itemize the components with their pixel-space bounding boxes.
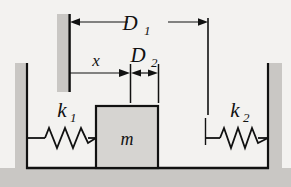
right-wall-fill [268,63,282,169]
left-wall-fill [15,63,27,169]
d1-label-subscript: 1 [144,23,151,38]
d2-label-subscript: 2 [151,55,158,70]
right-spring [205,128,268,148]
d1-arrowhead-right [198,18,208,26]
ground-fill [0,168,291,187]
d1-label: D [121,11,137,35]
left-spring [28,128,96,148]
x-label: x [91,51,100,70]
mass-label: m [121,129,134,149]
d2-arrowhead-right [148,70,158,77]
k1-label: k [57,98,67,122]
d1-arrowhead-left [70,18,80,26]
reference-post [57,14,70,92]
k2-label-subscript: 2 [243,110,250,125]
physics-diagram: D 1 D 2 x k 1 k 2 m [0,0,291,187]
diagram-canvas: D 1 D 2 x k 1 k 2 m [0,0,291,187]
k1-label-subscript: 1 [70,110,77,125]
k2-label: k [230,98,240,122]
d2-arrowhead-left [131,70,141,77]
x-arrowhead [119,69,130,77]
d2-label: D [129,43,145,67]
